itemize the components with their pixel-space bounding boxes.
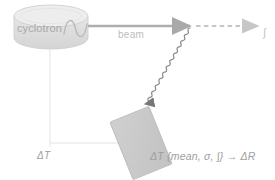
detector-formula-label: ΔT {mean, σ, ∫} → ΔR <box>150 150 256 162</box>
diagram-canvas: cyclotron beam ∫ ΔT ΔT {mean, σ, ∫} → ΔR <box>0 0 275 180</box>
detector-block <box>110 106 172 179</box>
scattered-radiation-wavy-arrow <box>146 22 190 109</box>
beam-label: beam <box>118 29 144 40</box>
cyclotron-label: cyclotron <box>17 22 62 34</box>
continuation-symbol-label: ∫ <box>263 26 266 38</box>
delta-t-label: ΔT <box>37 150 50 161</box>
measurement-guide-lines <box>50 47 124 147</box>
